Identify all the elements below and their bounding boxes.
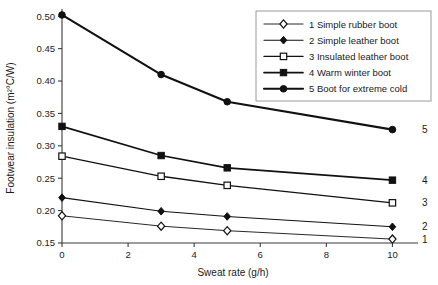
line-chart: 0.150.200.250.300.350.400.450.500246810 … xyxy=(0,0,438,285)
legend-label-3: 3 Insulated leather boot xyxy=(309,51,409,62)
legend-marker-3 xyxy=(280,53,286,59)
data-point-4-0 xyxy=(59,123,65,129)
data-point-3-2 xyxy=(224,182,230,188)
x-tick-label: 6 xyxy=(258,249,263,260)
y-tick-label: 0.35 xyxy=(37,108,56,119)
y-tick-label: 0.30 xyxy=(37,140,56,151)
legend-label-1: 1 Simple rubber boot xyxy=(309,19,398,30)
data-point-4-3 xyxy=(389,177,395,183)
end-label-4: 4 xyxy=(422,175,428,186)
x-tick-label: 0 xyxy=(59,249,64,260)
y-tick-label: 0.40 xyxy=(37,75,56,86)
data-point-4-2 xyxy=(224,165,230,171)
data-point-3-0 xyxy=(59,153,65,159)
data-point-5-0 xyxy=(59,12,66,19)
end-label-2: 2 xyxy=(422,221,428,232)
data-point-3-1 xyxy=(158,173,164,179)
end-label-3: 3 xyxy=(422,197,428,208)
data-point-3-3 xyxy=(389,200,395,206)
y-tick-label: 0.20 xyxy=(37,205,56,216)
data-point-4-1 xyxy=(158,152,164,158)
x-tick-label: 4 xyxy=(192,249,197,260)
legend-label-5: 5 Boot for extreme cold xyxy=(309,83,407,94)
x-tick-label: 2 xyxy=(125,249,130,260)
legend-marker-5 xyxy=(280,86,287,93)
legend-item-1[interactable]: 1 Simple rubber boot xyxy=(264,19,398,30)
x-tick-label: 10 xyxy=(387,249,398,260)
end-label-5: 5 xyxy=(422,124,428,135)
data-point-5-1 xyxy=(158,71,165,78)
y-tick-label: 0.45 xyxy=(37,43,56,54)
data-point-5-2 xyxy=(224,98,231,105)
chart-figure: 0.150.200.250.300.350.400.450.500246810 … xyxy=(0,0,438,285)
y-tick-label: 0.15 xyxy=(37,237,56,248)
y-axis-title: Footwear insulation (m²°C/W) xyxy=(5,62,16,193)
legend-label-4: 4 Warm winter boot xyxy=(309,67,391,78)
legend-marker-4 xyxy=(280,69,286,75)
legend-label-2: 2 Simple leather boot xyxy=(309,35,399,46)
end-label-1: 1 xyxy=(422,234,428,245)
legend: 1 Simple rubber boot2 Simple leather boo… xyxy=(256,11,431,101)
x-tick-label: 8 xyxy=(324,249,329,260)
y-tick-label: 0.25 xyxy=(37,173,56,184)
data-point-5-3 xyxy=(389,126,396,133)
x-axis-title: Sweat rate (g/h) xyxy=(197,267,268,278)
y-tick-label: 0.50 xyxy=(37,11,56,22)
